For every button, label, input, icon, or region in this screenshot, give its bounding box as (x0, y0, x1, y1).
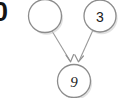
node-n3[interactable]: 9 (58, 65, 93, 99)
node-n2[interactable]: 3 (84, 0, 118, 34)
node-label: 3 (96, 9, 104, 25)
node-n1[interactable] (29, 0, 64, 35)
edge-line (80, 30, 94, 60)
graph-svg: 3 9 (0, 0, 120, 98)
graph-canvas: 0 3 (0, 0, 120, 98)
nodes-group: 3 9 (29, 0, 118, 98)
edge-n1-to-n3[interactable] (52, 31, 74, 62)
node-label: 9 (70, 74, 78, 90)
edge-n2-to-n3[interactable] (75, 30, 93, 62)
arrowhead-icon (75, 55, 84, 62)
edges-group (52, 30, 93, 62)
node-circle (29, 0, 62, 33)
